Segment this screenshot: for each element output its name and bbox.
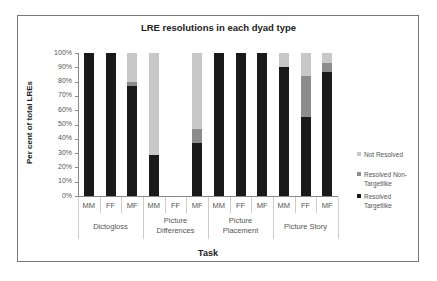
- group-label-line: Differences: [143, 226, 208, 236]
- bar-ff-4: [171, 53, 181, 196]
- bar-segment-resolved-targetlike: [149, 155, 159, 196]
- bar-segment-resolved-targetlike: [192, 143, 202, 196]
- group-separator: [273, 197, 274, 239]
- category-separator: [186, 197, 187, 213]
- bar-segment-not-resolved: [192, 53, 202, 129]
- bar-segment-not-resolved: [322, 53, 332, 63]
- bar-mf-11: [322, 53, 332, 196]
- x-category-label: MM: [273, 201, 295, 210]
- x-category-label: FF: [165, 201, 187, 210]
- bar-segment-not-resolved: [149, 53, 159, 155]
- bar-mm-9: [279, 53, 289, 196]
- group-separator: [78, 197, 79, 239]
- bar-segment-not-resolved: [279, 53, 289, 67]
- legend-resolved-targetlike: Resolved Targetlike: [357, 192, 392, 210]
- bar-mf-8: [257, 53, 267, 196]
- x-category-label: MM: [208, 201, 230, 210]
- bar-mf-2: [127, 53, 137, 196]
- x-category-label: MF: [251, 201, 273, 210]
- x-category-label: FF: [230, 201, 252, 210]
- bar-segment-resolved-non-targetlike: [192, 129, 202, 143]
- bar-mm-3: [149, 53, 159, 196]
- bar-segment-resolved-targetlike: [301, 117, 311, 196]
- legend-label: Resolved: [364, 193, 391, 200]
- legend-label: Targetlike: [357, 179, 407, 188]
- category-separator: [316, 197, 317, 213]
- y-tick-label: 10%: [42, 177, 72, 184]
- bar-segment-resolved-non-targetlike: [322, 63, 332, 72]
- bar-segment-not-resolved: [301, 53, 311, 76]
- bar-mm-0: [84, 53, 94, 196]
- bar-segment-resolved-targetlike: [106, 53, 116, 196]
- y-tick-label: 20%: [42, 163, 72, 170]
- y-tick-label: 70%: [42, 91, 72, 98]
- bar-segment-resolved-targetlike: [127, 86, 137, 196]
- group-label-dictogloss: Dictogloss: [78, 222, 143, 232]
- y-tick-label: 40%: [42, 134, 72, 141]
- group-separator: [338, 197, 339, 239]
- bar-segment-resolved-targetlike: [84, 53, 94, 196]
- bar-segment-not-resolved: [127, 53, 137, 82]
- y-tick-label: 80%: [42, 77, 72, 84]
- y-tick-label: 90%: [42, 63, 72, 70]
- x-category-label: MF: [121, 201, 143, 210]
- x-axis-label: Task: [78, 248, 338, 258]
- x-category-label: MM: [143, 201, 165, 210]
- group-label-line: Placement: [208, 226, 273, 236]
- category-separator: [251, 197, 252, 213]
- bar-mf-5: [192, 53, 202, 196]
- bar-segment-resolved-targetlike: [214, 53, 224, 196]
- legend-swatch-icon: [357, 172, 361, 176]
- group-label-line: Picture: [143, 216, 208, 226]
- bar-segment-resolved-targetlike: [279, 67, 289, 196]
- bar-ff-7: [236, 53, 246, 196]
- group-label-picture-placement: Picture Placement: [208, 216, 273, 236]
- bar-ff-1: [106, 53, 116, 196]
- legend-not-resolved: Not Resolved: [357, 150, 403, 159]
- y-tick-label: 0%: [42, 192, 72, 199]
- category-separator: [121, 197, 122, 213]
- legend-label: Not Resolved: [364, 151, 403, 158]
- x-category-label: FF: [295, 201, 317, 210]
- bar-segment-resolved-targetlike: [236, 53, 246, 196]
- y-axis-label: Per cent of total LREs: [25, 68, 34, 178]
- group-label-line: Picture: [208, 216, 273, 226]
- legend-swatch-icon: [357, 194, 361, 198]
- category-separator: [230, 197, 231, 213]
- y-tick-label: 30%: [42, 149, 72, 156]
- y-tick-label: 50%: [42, 120, 72, 127]
- y-tick-label: 60%: [42, 106, 72, 113]
- chart-title: LRE resolutions in each dyad type: [0, 22, 437, 33]
- x-category-label: MF: [186, 201, 208, 210]
- x-category-label: MF: [316, 201, 338, 210]
- bar-segment-resolved-non-targetlike: [301, 76, 311, 117]
- legend-label: Resolved Non-: [364, 171, 407, 178]
- legend-swatch-icon: [357, 152, 361, 156]
- group-label-picture-story: Picture Story: [273, 222, 338, 232]
- y-tick-label: 100%: [42, 49, 72, 56]
- group-label-picture-differences: Picture Differences: [143, 216, 208, 236]
- category-separator: [295, 197, 296, 213]
- category-separator: [100, 197, 101, 213]
- legend-resolved-non-targetlike: Resolved Non- Targetlike: [357, 170, 407, 188]
- bar-segment-resolved-targetlike: [257, 53, 267, 196]
- bar-segment-resolved-non-targetlike: [127, 82, 137, 86]
- bar-mm-6: [214, 53, 224, 196]
- legend-label: Targetlike: [357, 201, 392, 210]
- y-axis: [78, 53, 79, 197]
- category-separator: [165, 197, 166, 213]
- x-category-label: FF: [100, 201, 122, 210]
- bar-ff-10: [301, 53, 311, 196]
- bar-segment-resolved-targetlike: [322, 72, 332, 196]
- x-category-label: MM: [78, 201, 100, 210]
